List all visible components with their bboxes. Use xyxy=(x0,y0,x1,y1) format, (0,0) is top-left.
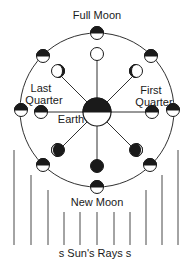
earth-icon xyxy=(83,98,111,126)
full-moon-label: Full Moon xyxy=(72,9,122,21)
inner-moon-waning-crescent-icon xyxy=(52,144,65,157)
inner-moon-new-icon xyxy=(91,160,104,173)
moon-phases-diagram xyxy=(0,0,190,270)
inner-moon-waxing-crescent-icon xyxy=(130,144,143,157)
new-moon-label: New Moon xyxy=(67,196,127,208)
outer-moon-new-icon xyxy=(91,181,104,194)
earth-label: Earth xyxy=(56,113,86,125)
outer-moon-waxing-gibbous-icon xyxy=(145,50,158,63)
last-quarter-label-line2: Quarter xyxy=(24,94,64,106)
first-quarter-label-line1: First xyxy=(136,84,166,96)
inner-moon-waxing-gibbous-icon xyxy=(130,65,143,78)
first-quarter-label-line2: Quarter xyxy=(134,96,174,108)
last-quarter-label-line1: Last xyxy=(26,82,56,94)
outer-moon-waning-crescent-icon xyxy=(37,159,50,172)
suns-rays-label: s Sun's Rays s xyxy=(55,247,135,259)
outer-moon-waxing-crescent-icon xyxy=(144,159,157,172)
inner-moon-waning-gibbous-icon xyxy=(52,65,65,78)
inner-moon-full-icon xyxy=(91,48,104,61)
outer-moon-waning-gibbous-icon xyxy=(37,50,50,63)
inner-moon-last-quarter-icon xyxy=(35,106,48,119)
outer-moon-full-icon xyxy=(91,27,104,40)
